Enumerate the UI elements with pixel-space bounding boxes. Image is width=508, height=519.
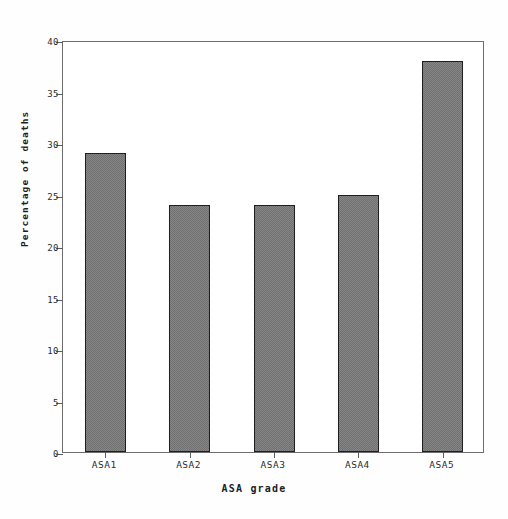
y-axis-tick-label: 40 xyxy=(47,37,59,47)
plot-area: 0510152025303540 xyxy=(62,41,484,453)
bar-asa2 xyxy=(169,205,210,452)
bar-asa3 xyxy=(254,205,295,452)
y-axis-tick-label: 35 xyxy=(47,89,59,99)
bars-group xyxy=(63,42,483,452)
y-axis-title: Percentage of deaths xyxy=(19,111,30,247)
x-axis-tick xyxy=(190,452,191,458)
y-axis-tick-label: 0 xyxy=(53,449,59,459)
x-axis-tick-label-asa2: ASA2 xyxy=(176,459,201,470)
x-axis-tick-label-asa5: ASA5 xyxy=(429,459,454,470)
y-axis-tick-label: 30 xyxy=(47,140,59,150)
x-axis-tick-label-asa1: ASA1 xyxy=(92,459,117,470)
y-axis-tick-label: 10 xyxy=(47,346,59,356)
bar-asa1 xyxy=(85,153,126,452)
y-axis-tick-label: 15 xyxy=(47,295,59,305)
bar-chart-figure: 0510152025303540 ASA1ASA2ASA3ASA4ASA5 AS… xyxy=(0,0,508,519)
bar-asa5 xyxy=(422,61,463,452)
x-axis-tick xyxy=(443,452,444,458)
x-axis-tick xyxy=(274,452,275,458)
bar-asa4 xyxy=(338,195,379,453)
x-axis-tick xyxy=(105,452,106,458)
x-axis-tick-label-asa3: ASA3 xyxy=(261,459,286,470)
y-axis-tick-label: 25 xyxy=(47,192,59,202)
y-axis-tick-label: 20 xyxy=(47,243,59,253)
y-axis-tick-label: 5 xyxy=(53,398,59,408)
x-axis-title: ASA grade xyxy=(0,483,508,494)
x-axis-tick xyxy=(358,452,359,458)
x-axis-tick-label-asa4: ASA4 xyxy=(345,459,370,470)
